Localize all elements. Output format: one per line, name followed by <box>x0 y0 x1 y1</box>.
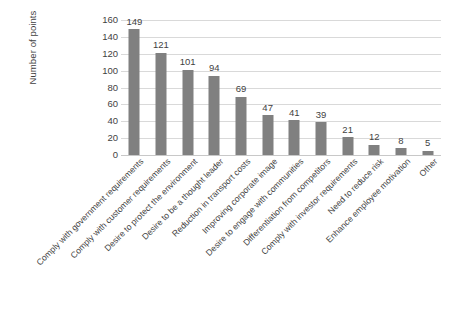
bar-slot: 41 <box>281 20 308 155</box>
y-axis-tick-label: 160 <box>102 15 118 25</box>
bar-value-label: 21 <box>342 125 353 135</box>
bar <box>235 97 246 155</box>
y-axis-title: Number of points <box>27 0 38 128</box>
bar <box>182 70 193 155</box>
bar-slot: 121 <box>148 20 175 155</box>
bar <box>289 120 300 155</box>
bar-slot: 39 <box>308 20 335 155</box>
bar <box>422 151 433 155</box>
axis-baseline <box>121 155 441 156</box>
bar-value-label: 47 <box>262 103 273 113</box>
bar-slot: 5 <box>414 20 441 155</box>
bar <box>369 145 380 155</box>
x-axis-category-label: Comply with government requirements <box>35 157 145 267</box>
bar-value-label: 41 <box>289 108 300 118</box>
bar-value-label: 12 <box>369 132 380 142</box>
y-axis-tick-label: 20 <box>107 133 118 143</box>
bar <box>262 115 273 155</box>
bar <box>395 148 406 155</box>
x-axis-category-labels: Comply with government requirementsCompl… <box>121 157 441 307</box>
bar-series: 1491211019469474139211285 <box>121 20 441 155</box>
y-axis-tick-label: 100 <box>102 66 118 76</box>
bar-slot: 101 <box>174 20 201 155</box>
bar <box>129 29 140 155</box>
bar-slot: 8 <box>388 20 415 155</box>
bar-slot: 69 <box>228 20 255 155</box>
bar <box>155 53 166 155</box>
bar-value-label: 149 <box>126 17 142 27</box>
bar-chart: Number of points 160140120100806040200 1… <box>0 0 449 322</box>
bar-value-label: 5 <box>425 138 430 148</box>
bar-slot: 21 <box>334 20 361 155</box>
y-axis-tick-label: 120 <box>102 49 118 59</box>
bar-value-label: 69 <box>236 84 247 94</box>
bar-value-label: 39 <box>316 110 327 120</box>
bar-value-label: 121 <box>153 40 169 50</box>
y-axis-tick-labels: 160140120100806040200 <box>92 20 118 155</box>
bar <box>315 122 326 155</box>
y-axis-tick-label: 80 <box>107 83 118 93</box>
y-axis-tick-label: 0 <box>113 150 118 160</box>
bar <box>209 76 220 155</box>
plot-area: 1491211019469474139211285 <box>121 20 441 155</box>
bar-value-label: 94 <box>209 63 220 73</box>
bar-value-label: 8 <box>398 136 403 146</box>
bar-slot: 149 <box>121 20 148 155</box>
bar-slot: 12 <box>361 20 388 155</box>
y-axis-tick-label: 140 <box>102 32 118 42</box>
bar-slot: 94 <box>201 20 228 155</box>
y-axis-tick-label: 40 <box>107 117 118 127</box>
bar <box>342 137 353 155</box>
bar-value-label: 101 <box>180 57 196 67</box>
y-axis-tick-label: 60 <box>107 100 118 110</box>
bar-slot: 47 <box>254 20 281 155</box>
x-axis-category-label: Other <box>417 157 439 179</box>
